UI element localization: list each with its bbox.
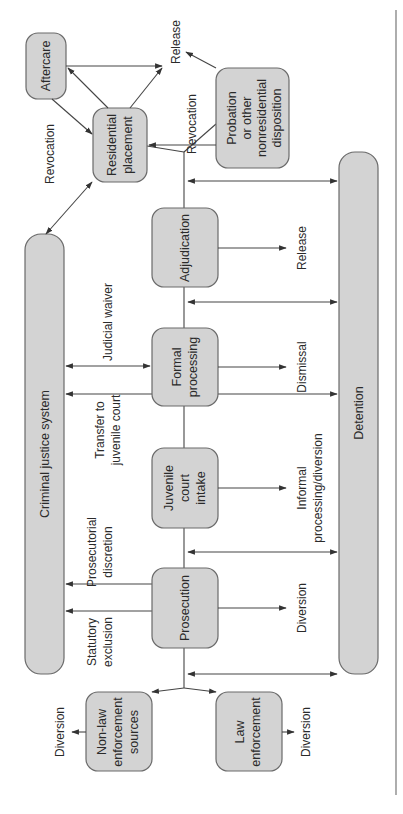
svg-text:Probation: Probation <box>225 91 239 145</box>
svg-text:or other: or other <box>240 96 254 139</box>
cjs-residential-arrow <box>46 182 92 234</box>
svg-text:sources: sources <box>127 710 141 754</box>
label-statutory-exclusion-2: exclusion <box>101 617 115 667</box>
node-aftercare: Aftercare <box>26 33 66 99</box>
label-revocation-probation: Revocation <box>185 94 199 154</box>
juvenile-justice-flowchart: Criminal justice system Detention Non-la… <box>0 0 403 814</box>
label-diversion-non-law: Diversion <box>53 707 67 757</box>
svg-text:Law: Law <box>233 720 247 744</box>
arrow-probation-release <box>186 52 216 68</box>
arrow-to-non-law <box>152 688 184 692</box>
detention-bar: Detention <box>339 152 378 674</box>
svg-text:Non-law: Non-law <box>95 708 109 755</box>
svg-text:enforcement: enforcement <box>249 697 263 767</box>
label-dismissal: Dismissal <box>295 341 309 392</box>
label-revocation-aftercare: Revocation <box>43 124 57 184</box>
svg-text:Aftercare: Aftercare <box>39 41 53 92</box>
label-prosecutorial-discretion-2: discretion <box>101 526 115 577</box>
label-release-adjudication: Release <box>295 226 309 270</box>
label-diversion-prosecution: Diversion <box>295 583 309 633</box>
svg-text:intake: intake <box>194 471 208 504</box>
node-non-law-enforcement: Non-law enforcement sources <box>86 692 152 771</box>
node-law-enforcement: Law enforcement <box>216 692 282 771</box>
svg-text:Juvenile: Juvenile <box>162 465 176 511</box>
svg-text:Residential: Residential <box>105 114 119 176</box>
arrow-residential-aftercare <box>68 68 108 108</box>
svg-text:Adjudication: Adjudication <box>178 214 192 282</box>
node-probation: Probation or other nonresidential dispos… <box>216 68 289 168</box>
node-adjudication: Adjudication <box>152 208 218 287</box>
node-formal-processing: Formal processing <box>152 328 218 406</box>
svg-text:Formal: Formal <box>170 348 184 387</box>
svg-text:placement: placement <box>121 116 135 174</box>
svg-text:court: court <box>178 474 192 502</box>
svg-text:processing: processing <box>186 337 200 397</box>
label-statutory-exclusion: Statutory <box>85 618 99 666</box>
node-residential-placement: Residential placement <box>93 108 147 182</box>
svg-text:Detention: Detention <box>352 386 366 440</box>
label-judicial-waiver: Judicial waiver <box>101 283 115 361</box>
node-juvenile-court-intake: Juvenile court intake <box>152 448 218 528</box>
fork-to-residential <box>147 146 184 152</box>
arrow-to-law <box>184 688 216 692</box>
label-informal-processing: Informal <box>295 466 309 509</box>
arrow-residential-release <box>130 68 162 108</box>
svg-text:Prosecution: Prosecution <box>178 575 192 641</box>
label-transfer-juvenile: Transfer to <box>93 401 107 459</box>
arrow-aftercare-revocation <box>52 99 92 134</box>
svg-text:disposition: disposition <box>270 88 284 147</box>
svg-text:enforcement: enforcement <box>111 697 125 767</box>
label-diversion-law: Diversion <box>299 707 313 757</box>
node-prosecution: Prosecution <box>152 568 218 648</box>
svg-text:nonresidential: nonresidential <box>255 79 269 157</box>
criminal-justice-system-bar: Criminal justice system <box>25 234 64 674</box>
label-transfer-juvenile-2: juvenile court <box>109 394 123 466</box>
label-release-top: Release <box>169 20 183 64</box>
label-informal-processing-2: processing/diversion <box>311 433 325 542</box>
label-prosecutorial-discretion: Prosecutorial <box>85 517 99 587</box>
svg-text:Criminal justice system: Criminal justice system <box>38 390 52 518</box>
